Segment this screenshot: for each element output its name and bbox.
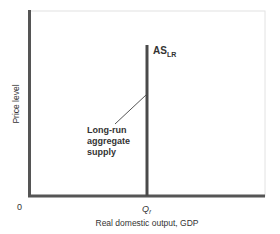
y-axis-label: Price level	[11, 84, 21, 123]
x-marker-label: Qf	[142, 204, 152, 215]
x-axis-label: Real domestic output, GDP	[96, 218, 199, 228]
origin-label: 0	[17, 202, 22, 212]
callout-line-1: Long-run	[87, 125, 127, 135]
lras-diagram: ASLR Long-run aggregate supply 0 Qf Real…	[0, 0, 280, 234]
callout-line-2: aggregate	[87, 136, 130, 146]
callout-leader-line	[115, 95, 146, 124]
callout-line-3: supply	[87, 147, 116, 157]
curve-label: ASLR	[153, 45, 176, 58]
